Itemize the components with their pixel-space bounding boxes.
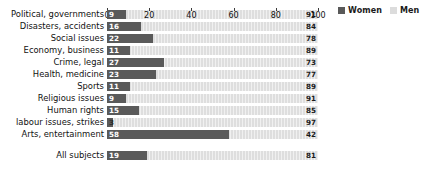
bar-track (107, 22, 318, 31)
x-axis-tick-label: 80 (271, 11, 281, 20)
bar-rows: Political, governments991Disasters, acci… (0, 8, 432, 140)
bar-row-10: Arts, entertainment5842 (0, 128, 432, 140)
summary-bar-row: All subjects1981 (0, 149, 432, 161)
value-label-men: 77 (296, 70, 316, 79)
category-label: Crime, legal (0, 57, 104, 67)
category-label: Arts, entertainment (0, 129, 104, 139)
bar-track (107, 130, 318, 139)
bar-track (107, 46, 318, 55)
value-label-men: 42 (296, 130, 316, 139)
x-axis-tick-label: 40 (186, 11, 196, 20)
value-label-women: 19 (109, 151, 119, 160)
bar-row-3: Economy, business1189 (0, 44, 432, 56)
category-label: Health, medicine (0, 69, 104, 79)
value-label-women: 15 (109, 106, 119, 115)
category-label: Sports (0, 81, 104, 91)
plot-area: Political, governments991Disasters, acci… (0, 8, 432, 161)
bar-row-8: Human rights1585 (0, 104, 432, 116)
value-label-men: 78 (296, 34, 316, 43)
value-label-women: 11 (109, 46, 119, 55)
bar-track (107, 151, 318, 160)
bar-track (107, 106, 318, 115)
value-label-men: 97 (296, 118, 316, 127)
category-label: Religious issues (0, 93, 104, 103)
category-label: labour issues, strikes (0, 117, 104, 127)
value-label-women: 58 (109, 130, 119, 139)
bar-segment-women (107, 130, 229, 139)
value-label-men: 89 (296, 46, 316, 55)
category-label: All subjects (0, 150, 104, 160)
category-label: Economy, business (0, 45, 104, 55)
value-label-women: 23 (109, 70, 119, 79)
bar-track (107, 34, 318, 43)
x-axis-tick-label: 20 (144, 11, 154, 20)
bar-track (107, 118, 318, 127)
x-axis-tick-label: 60 (229, 11, 239, 20)
bar-row-4: Crime, legal2773 (0, 56, 432, 68)
category-label: Political, governments (0, 9, 104, 19)
value-label-women: 16 (109, 22, 119, 31)
category-label: Human rights (0, 105, 104, 115)
value-label-women: 27 (109, 58, 119, 67)
category-label: Social issues (0, 33, 104, 43)
bar-track (107, 58, 318, 67)
row-gap (0, 140, 432, 149)
bar-track (107, 82, 318, 91)
bar-row-2: Social issues2278 (0, 32, 432, 44)
bar-track (107, 70, 318, 79)
bar-row-9: labour issues, strikes397 (0, 116, 432, 128)
value-label-women: 9 (109, 94, 114, 103)
value-label-men: 91 (296, 10, 316, 19)
bar-row-all-subjects: All subjects1981 (0, 149, 432, 161)
value-label-men: 89 (296, 82, 316, 91)
value-label-men: 81 (296, 151, 316, 160)
value-label-women: 9 (109, 10, 114, 19)
bar-row-7: Religious issues991 (0, 92, 432, 104)
bar-row-6: Sports1189 (0, 80, 432, 92)
value-label-women: 22 (109, 34, 119, 43)
value-label-women: 11 (109, 82, 119, 91)
value-label-men: 73 (296, 58, 316, 67)
x-axis: 020406080100 (107, 8, 318, 22)
value-label-men: 91 (296, 94, 316, 103)
value-label-men: 84 (296, 22, 316, 31)
stacked-bar-chart: Women Men Political, governments991Disas… (0, 0, 432, 180)
value-label-men: 85 (296, 106, 316, 115)
category-label: Disasters, accidents (0, 21, 104, 31)
bar-track (107, 94, 318, 103)
bar-row-5: Health, medicine2377 (0, 68, 432, 80)
value-label-women: 3 (109, 118, 114, 127)
